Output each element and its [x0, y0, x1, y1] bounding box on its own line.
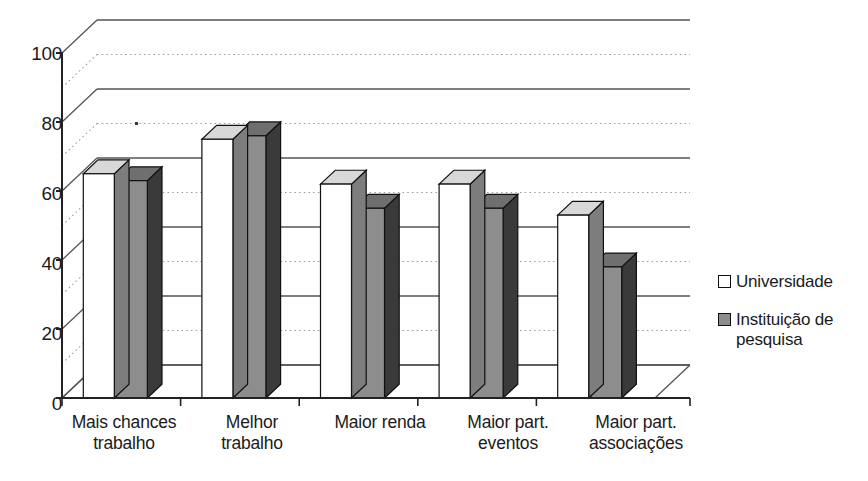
- x-label-0: Mais chances trabalho: [60, 412, 188, 476]
- x-label-3-line1: Maior part.: [444, 412, 572, 433]
- chart-legend: Universidade Instituição de pesquisa: [718, 272, 866, 368]
- bar-side-face: [622, 253, 637, 398]
- bar-side-face: [266, 122, 281, 398]
- x-axis-category-labels: Mais chances trabalho Melhor trabalho Ma…: [60, 412, 700, 476]
- depth-connector-70: [62, 124, 97, 157]
- x-label-2-line1: Maior renda: [316, 412, 444, 433]
- bar-front-face: [439, 184, 470, 398]
- bar-side-face: [589, 201, 604, 398]
- depth-connector-90: [62, 55, 97, 88]
- depth-connector-80: [62, 89, 97, 122]
- x-label-3: Maior part. eventos: [444, 412, 572, 476]
- x-label-1-line1: Melhor: [188, 412, 316, 433]
- bar-4-0: [558, 201, 604, 398]
- x-label-4: Maior part. associações: [572, 412, 700, 476]
- depth-connector-100: [62, 20, 97, 53]
- bar-side-face: [233, 125, 248, 398]
- bar-side-face: [114, 160, 129, 398]
- x-label-0-line1: Mais chances: [60, 412, 188, 433]
- x-label-4-line2: associações: [572, 433, 700, 454]
- scan-speck: [135, 122, 138, 125]
- bar-side-face: [503, 194, 518, 398]
- legend-label-instituicao: Instituição de pesquisa: [736, 310, 833, 350]
- legend-swatch-white-icon: [718, 275, 731, 288]
- x-label-0-line2: trabalho: [60, 433, 188, 454]
- legend-swatch-gray-icon: [718, 313, 731, 326]
- bar-front-face: [83, 174, 114, 398]
- floor-right-edge: [655, 365, 690, 398]
- legend-item-universidade: Universidade: [718, 272, 866, 292]
- x-label-3-line2: eventos: [444, 433, 572, 454]
- bar-front-face: [202, 139, 233, 398]
- bar-side-face: [147, 167, 162, 398]
- plot-area: [0, 0, 868, 481]
- bar-1-0: [202, 125, 248, 398]
- bar-2-0: [321, 170, 367, 398]
- x-label-4-line1: Maior part.: [572, 412, 700, 433]
- bar-3-0: [439, 170, 485, 398]
- legend-label-instituicao-line1: Instituição de: [736, 310, 833, 329]
- x-label-2: Maior renda: [316, 412, 444, 476]
- bar-0-0: [83, 160, 129, 398]
- legend-label-universidade: Universidade: [736, 272, 833, 292]
- legend-label-instituicao-line2: pesquisa: [736, 330, 802, 349]
- bar-front-face: [558, 215, 589, 398]
- bar-side-face: [352, 170, 367, 398]
- x-label-1: Melhor trabalho: [188, 412, 316, 476]
- legend-item-instituicao: Instituição de pesquisa: [718, 310, 866, 350]
- x-label-1-line2: trabalho: [188, 433, 316, 454]
- bar-side-face: [385, 194, 400, 398]
- bar-side-face: [470, 170, 485, 398]
- bar-front-face: [321, 184, 352, 398]
- bar-chart: 100 80 60 40 20 0 Mais chances trabalho …: [0, 0, 868, 481]
